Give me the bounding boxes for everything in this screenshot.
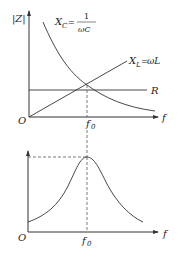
bottom-origin-label: O xyxy=(18,232,26,243)
bottom-graph: f O f 0 xyxy=(18,151,169,248)
capacitive-reactance-label: X C = 1 ωC xyxy=(54,12,96,34)
bottom-x-axis-label-f: f xyxy=(162,228,169,239)
top-origin-label: O xyxy=(18,115,26,126)
bottom-f0-label: f 0 xyxy=(81,235,92,248)
bottom-f0-sub: 0 xyxy=(87,240,92,248)
y-axis-label-z: |Z| xyxy=(12,13,26,25)
inductive-reactance-line xyxy=(29,61,127,117)
top-f0-sub: 0 xyxy=(91,123,96,131)
resonance-curve xyxy=(28,157,143,222)
resistance-label: R xyxy=(150,85,159,96)
impedance-resonance-diagram: |Z| f O X C = 1 ωC X L = ωL R f 0 xyxy=(0,0,181,258)
top-f0-label: f 0 xyxy=(85,118,96,131)
xl-expr: ωL xyxy=(147,56,160,66)
top-x-axis-label-f: f xyxy=(161,112,168,123)
inductive-reactance-label: X L = ωL xyxy=(128,55,160,69)
top-graph: |Z| f O X C = 1 ωC X L = ωL R f 0 xyxy=(12,11,168,131)
xc-equals: = xyxy=(68,18,75,27)
xc-denominator: ωC xyxy=(78,25,91,34)
xc-numerator: 1 xyxy=(84,12,89,21)
